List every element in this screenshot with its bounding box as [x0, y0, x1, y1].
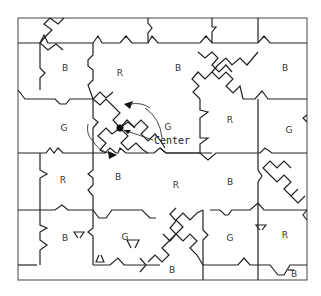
tile-labels: BRBBGGRGRBRBBGGRBB — [60, 63, 297, 279]
tile-label: R — [60, 175, 66, 185]
tile-label: B — [62, 63, 68, 73]
tile-label: R — [227, 115, 233, 125]
rotation-arc-upper — [145, 108, 162, 138]
tile-label: B — [175, 63, 181, 73]
tile-label: R — [282, 230, 288, 240]
rotation-arc-upper-left — [130, 104, 150, 109]
tile-label: B — [291, 269, 297, 279]
arrow-head-upper-icon — [124, 101, 133, 109]
rotation-center-dot-icon — [117, 125, 124, 132]
tile-label: G — [227, 233, 234, 243]
tile-label: B — [62, 233, 68, 243]
tile-label: B — [227, 177, 233, 187]
rotation-annotation: Center — [88, 101, 191, 159]
tile-label: G — [61, 123, 68, 133]
rotation-arc-lower-left — [88, 124, 93, 140]
tile-label: G — [122, 232, 129, 242]
tile-label: R — [117, 68, 123, 78]
tile-label: G — [286, 125, 293, 135]
tile-label: B — [282, 63, 288, 73]
tile-label: B — [115, 172, 121, 182]
tile-label: R — [173, 180, 179, 190]
tile-label: B — [169, 265, 175, 275]
tessellation-diagram: Center BRBBGGRGRBRBBGGRBB — [0, 0, 321, 296]
center-label: Center — [154, 135, 190, 146]
tile-label: G — [165, 122, 172, 132]
